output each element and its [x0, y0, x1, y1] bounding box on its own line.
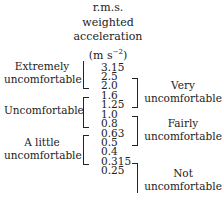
label-very-uncomfortable: Very uncomfortable [143, 79, 223, 105]
label-uncomfortable: Uncomfortable [4, 104, 80, 117]
bracket-a-little-uncomfortable [83, 135, 89, 165]
label-fairly-uncomfortable: Fairly uncomfortable [143, 117, 223, 143]
value-0.25: 0.25 [101, 165, 124, 175]
label-not-uncomfortable: Not uncomfortable [143, 167, 223, 193]
label-a-little-uncomfortable: A little uncomfortable [4, 136, 80, 162]
column-header: r.m.s. weighted acceleration (m s−2) [58, 1, 158, 63]
bracket-not-uncomfortable [132, 163, 138, 193]
bracket-fairly-uncomfortable [132, 116, 138, 146]
bracket-uncomfortable [83, 97, 89, 128]
header-line-2: weighted [58, 16, 158, 31]
header-line-3: acceleration [58, 30, 158, 45]
label-extremely-uncomfortable: Extremely uncomfortable [4, 60, 80, 86]
bracket-very-uncomfortable [132, 78, 138, 108]
header-line-1: r.m.s. [58, 1, 158, 16]
bracket-extremely-uncomfortable [83, 61, 89, 89]
